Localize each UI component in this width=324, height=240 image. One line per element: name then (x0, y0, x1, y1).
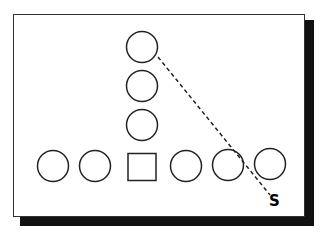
player-circle-back-2 (127, 71, 158, 102)
player-square-center (128, 154, 156, 181)
player-circle-line-1 (38, 151, 69, 182)
player-circle-line-2 (80, 151, 111, 182)
player-circle-back-1 (127, 32, 158, 63)
dashed-route-line (158, 57, 270, 195)
player-circle-line-4 (171, 151, 202, 182)
player-circle-line-6 (255, 149, 286, 180)
player-circle-back-3 (127, 110, 158, 141)
players-group (38, 32, 286, 182)
player-circle-line-5 (213, 150, 244, 181)
s-label: S (269, 194, 280, 209)
